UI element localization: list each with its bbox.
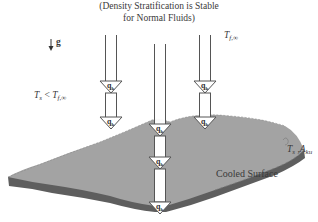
surface-a-subscript: ku [306, 148, 313, 156]
temperature-condition-label: Ts < Tf,∞ [34, 90, 66, 104]
diagram-canvas: qk qk qk qk qk qk qk [0, 0, 318, 222]
fluid-temperature-label: Tf,∞ [224, 30, 238, 44]
gravity-label: g [56, 37, 61, 48]
t-subscript: f,∞ [229, 34, 238, 42]
surface-properties-label: Ts ,Aku [287, 144, 312, 158]
gravity-arrow-icon [49, 39, 54, 51]
tf-subscript: f,∞ [57, 94, 66, 102]
cooled-surface-label: Cooled Surface [216, 168, 278, 179]
less-than-operator: < [42, 90, 52, 100]
